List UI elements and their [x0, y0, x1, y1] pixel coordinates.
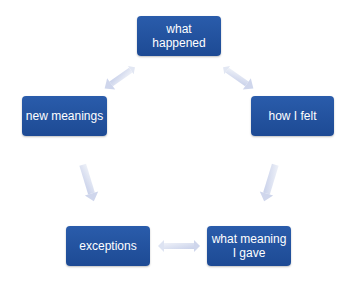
double-arrow-icon: [219, 62, 257, 95]
double-arrow-icon: [101, 62, 139, 95]
node-exceptions: exceptions: [66, 226, 150, 266]
node-what-happened: what happened: [137, 16, 221, 56]
node-how-i-felt: how I felt: [251, 96, 334, 136]
node-label: what happened: [152, 22, 205, 50]
node-label: new meanings: [26, 109, 103, 123]
node-label: what meaning I gave: [212, 232, 287, 260]
node-label: exceptions: [79, 239, 136, 253]
node-label: how I felt: [268, 109, 316, 123]
node-what-meaning-i-gave: what meaning I gave: [207, 226, 291, 266]
arrow-down-icon: [76, 163, 100, 203]
node-new-meanings: new meanings: [22, 96, 107, 136]
double-arrow-icon: [158, 240, 200, 252]
arrow-down-icon: [257, 163, 281, 203]
